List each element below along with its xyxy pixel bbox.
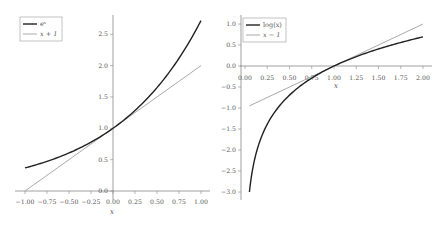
right-x-label: x xyxy=(334,82,338,90)
y-tick-label: 2.5 xyxy=(98,30,108,37)
x-tick-label: 0.50 xyxy=(283,74,297,81)
y-tick-label: −1.5 xyxy=(221,125,236,132)
x-tick-label: 0.25 xyxy=(128,198,142,205)
legend-label-x-plus-1: x + 1 xyxy=(40,30,57,38)
x-tick-label: −1.00 xyxy=(16,198,35,205)
y-tick-label: 1.5 xyxy=(98,93,108,100)
right-x-ticks: 0.000.250.500.751.001.251.501.752.00 xyxy=(238,66,430,81)
y-tick-label: −2.5 xyxy=(221,167,236,174)
right-series-log xyxy=(249,37,423,192)
x-tick-label: 1.50 xyxy=(372,74,386,81)
right-y-ticks: −3.0−2.5−2.0−1.5−1.0−0.50.00.51.0 xyxy=(221,20,241,195)
left-x-ticks: −1.00−0.75−0.50−0.250.000.250.500.751.00 xyxy=(16,191,208,205)
x-tick-label: 2.00 xyxy=(416,74,430,81)
x-tick-label: 0.25 xyxy=(260,74,274,81)
legend-label-x-minus-1: x − 1 xyxy=(263,31,280,39)
y-tick-label: 0.5 xyxy=(226,41,236,48)
y-tick-label: −3.0 xyxy=(221,188,236,195)
x-tick-label: 0.75 xyxy=(172,198,186,205)
y-tick-label: 0.0 xyxy=(226,62,236,69)
right-chart: 0.000.250.500.751.001.251.501.752.00 −3.… xyxy=(221,15,432,200)
left-legend: eˣ x + 1 xyxy=(20,17,62,41)
figure: −1.00−0.75−0.50−0.250.000.250.500.751.00… xyxy=(0,0,444,225)
x-tick-label: 1.00 xyxy=(327,74,341,81)
legend-label-log: log(x) xyxy=(263,21,282,29)
left-x-label: x xyxy=(110,208,114,216)
y-tick-label: −2.0 xyxy=(221,146,236,153)
x-tick-label: 1.25 xyxy=(349,74,363,81)
y-tick-label: −0.5 xyxy=(221,83,236,90)
y-tick-label: 2.0 xyxy=(98,62,108,69)
x-tick-label: 0.00 xyxy=(238,74,252,81)
x-tick-label: 0.50 xyxy=(150,198,164,205)
left-y-ticks: 0.00.51.01.52.02.5 xyxy=(98,30,113,194)
left-chart: −1.00−0.75−0.50−0.250.000.250.500.751.00… xyxy=(15,15,210,216)
x-tick-label: −0.75 xyxy=(38,198,57,205)
right-legend: log(x) x − 1 xyxy=(243,18,286,42)
legend-label-exp: eˣ xyxy=(40,20,47,28)
y-tick-label: 1.0 xyxy=(98,124,108,131)
x-tick-label: 1.75 xyxy=(394,74,408,81)
x-tick-label: 1.00 xyxy=(194,198,208,205)
y-tick-label: −1.0 xyxy=(221,104,236,111)
x-tick-label: −0.50 xyxy=(60,198,79,205)
x-tick-label: 0.00 xyxy=(106,198,120,205)
y-tick-label: 0.0 xyxy=(98,187,108,194)
x-tick-label: −0.25 xyxy=(82,198,101,205)
y-tick-label: 0.5 xyxy=(98,156,108,163)
y-tick-label: 1.0 xyxy=(226,20,236,27)
